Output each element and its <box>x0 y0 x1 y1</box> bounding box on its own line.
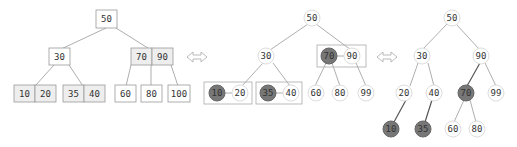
node-40-label: 40 <box>286 88 297 98</box>
node-30-label: 30 <box>261 51 272 61</box>
node-60-label: 60 <box>448 124 459 134</box>
double-arrow-icon <box>187 52 207 62</box>
node-60-label: 60 <box>120 89 131 99</box>
node-20-label: 20 <box>235 88 246 98</box>
node-99-label: 99 <box>361 88 372 98</box>
node-70-label: 70 <box>461 88 472 98</box>
node-70-label: 70 <box>136 52 147 62</box>
node-35-label: 35 <box>68 89 79 99</box>
node-60-label: 60 <box>311 88 322 98</box>
node-35-label: 35 <box>418 124 429 134</box>
node-80-label: 80 <box>472 124 483 134</box>
node-10-label: 10 <box>212 88 223 98</box>
node-100-label: 100 <box>171 89 187 99</box>
node-80-label: 80 <box>335 88 346 98</box>
node-40-label: 40 <box>429 88 440 98</box>
panel-grouped-rb-tree: 50 30 70 90 10 20 35 40 60 80 99 <box>204 10 374 104</box>
node-50-label: 50 <box>307 13 318 23</box>
node-30-label: 30 <box>54 52 65 62</box>
node-20-label: 20 <box>399 88 410 98</box>
node-90-label: 90 <box>157 52 168 62</box>
node-20-label: 20 <box>40 89 51 99</box>
panel-llrb-tree: 50 30 90 20 40 70 99 10 35 60 80 <box>383 10 504 137</box>
node-99-label: 99 <box>491 88 502 98</box>
node-70-label: 70 <box>324 51 335 61</box>
double-arrow-icon <box>377 52 397 62</box>
panel-2-3-tree: 50 30 70 90 10 20 35 40 60 80 100 <box>14 10 190 102</box>
node-10-label: 10 <box>19 89 30 99</box>
node-90-label: 90 <box>476 51 487 61</box>
node-50-label: 50 <box>101 14 112 24</box>
tree-diagram: 50 30 70 90 10 20 35 40 60 80 100 <box>0 0 517 147</box>
node-50-label: 50 <box>447 13 458 23</box>
node-90-label: 90 <box>347 51 358 61</box>
node-35-label: 35 <box>263 88 274 98</box>
node-30-label: 30 <box>417 51 428 61</box>
node-40-label: 40 <box>89 89 100 99</box>
node-10-label: 10 <box>386 124 397 134</box>
node-80-label: 80 <box>146 89 157 99</box>
